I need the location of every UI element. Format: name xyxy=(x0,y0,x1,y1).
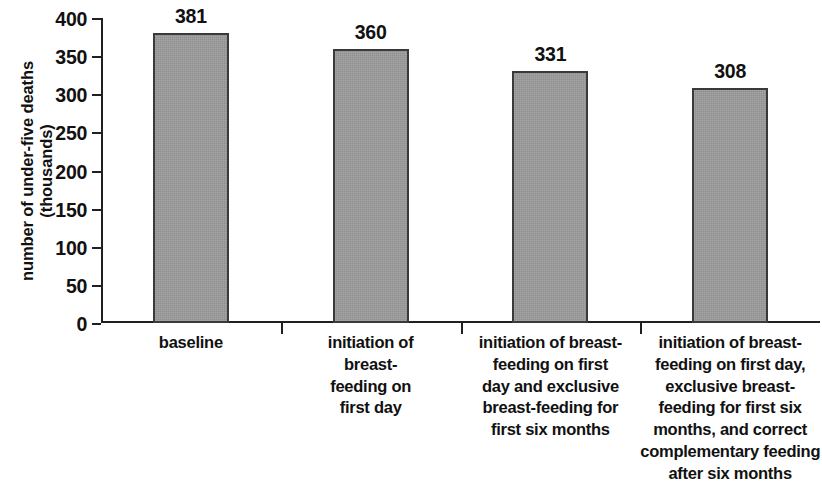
category-label: initiation of breast-feeding on first da… xyxy=(640,332,820,484)
category-label: baseline xyxy=(101,332,281,354)
category-label-line: feeding on first day, xyxy=(640,354,820,376)
category-label-line: months, and correct xyxy=(640,419,820,441)
category-label-line: baseline xyxy=(101,332,281,354)
bar-value-label: 308 xyxy=(714,60,746,83)
bar-value-label: 331 xyxy=(535,43,567,66)
category-label-line: first day xyxy=(281,397,461,419)
y-axis-tick: 150 xyxy=(92,209,101,211)
y-axis-tick: 50 xyxy=(92,285,101,287)
y-axis-line xyxy=(101,18,103,323)
bar xyxy=(153,33,229,324)
y-axis-tick: 300 xyxy=(92,94,101,96)
category-label-line: breast-feeding for xyxy=(461,397,641,419)
y-axis-title-line-2: (thousands) xyxy=(37,124,56,217)
category-label-line: day and exclusive xyxy=(461,376,641,398)
bar-chart: number of under-five deaths (thousands) … xyxy=(0,0,822,499)
category-label: initiation ofbreast-feeding onfirst day xyxy=(281,332,461,419)
category-label-line: feeding for first six xyxy=(640,397,820,419)
y-axis-tick: 200 xyxy=(92,171,101,173)
category-label-line: initiation of xyxy=(281,332,461,354)
y-axis-tick-label: 300 xyxy=(55,84,87,107)
y-axis-tick: 0 xyxy=(92,323,101,325)
y-axis-tick-label: 350 xyxy=(55,46,87,69)
plot-area: 400350300250200150100500 381360331308 xyxy=(101,18,820,323)
bar-value-label: 360 xyxy=(355,21,387,44)
bar xyxy=(512,71,588,323)
y-axis-tick-label: 0 xyxy=(76,313,87,336)
y-axis-tick: 350 xyxy=(92,56,101,58)
y-axis-tick-label: 200 xyxy=(55,160,87,183)
y-axis-tick-label: 400 xyxy=(55,8,87,31)
category-label-line: feeding on first xyxy=(461,354,641,376)
bar xyxy=(333,49,409,324)
category-label: initiation of breast-feeding on firstday… xyxy=(461,332,641,441)
category-label-line: after six months xyxy=(640,463,820,485)
bar xyxy=(692,88,768,323)
y-axis-tick-label: 50 xyxy=(66,274,87,297)
category-label-line: feeding on xyxy=(281,376,461,398)
y-axis-tick-label: 250 xyxy=(55,122,87,145)
category-label-line: exclusive breast- xyxy=(640,376,820,398)
category-label-line: complementary feeding xyxy=(640,441,820,463)
y-axis-tick-label: 150 xyxy=(55,198,87,221)
category-label-line: first six months xyxy=(461,419,641,441)
y-axis-tick: 400 xyxy=(92,18,101,20)
category-label-line: initiation of breast- xyxy=(461,332,641,354)
y-axis-title-line-1: number of under-five deaths xyxy=(18,61,37,281)
y-axis-tick: 250 xyxy=(92,132,101,134)
bar-value-label: 381 xyxy=(175,5,207,28)
y-axis-title: number of under-five deaths (thousands) xyxy=(14,16,60,326)
y-axis-tick-label: 100 xyxy=(55,236,87,259)
y-axis-tick: 100 xyxy=(92,247,101,249)
category-label-line: initiation of breast- xyxy=(640,332,820,354)
category-label-line: breast- xyxy=(281,354,461,376)
